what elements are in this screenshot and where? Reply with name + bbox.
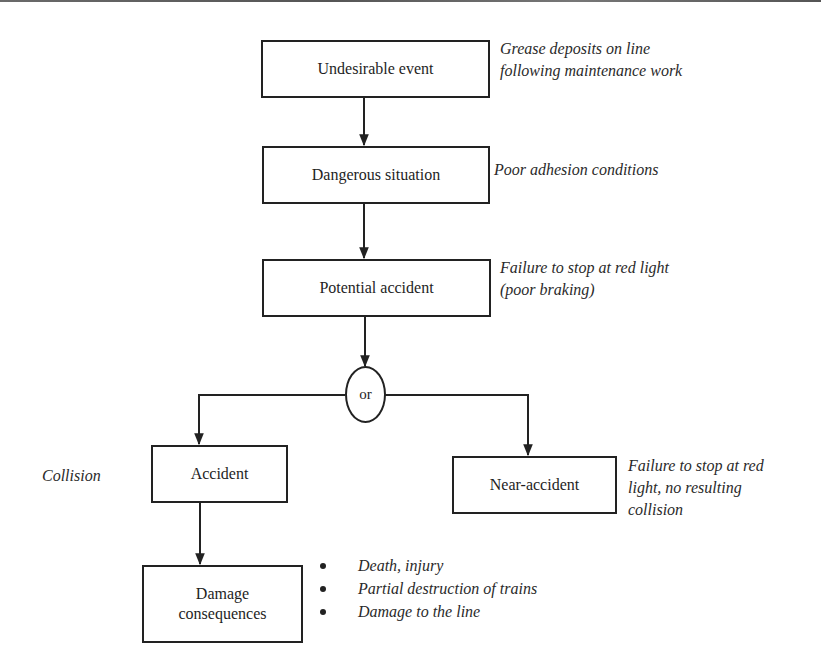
node-label-line: Damage	[196, 584, 249, 604]
list-item: Partial destruction of trains	[320, 577, 537, 600]
annotation-line: following maintenance work	[500, 60, 682, 82]
node-near-accident: Near-accident	[452, 456, 617, 514]
bullet-icon	[320, 563, 326, 569]
damage-consequences-list: Death, injury Partial destruction of tra…	[320, 554, 537, 623]
node-label: Dangerous situation	[312, 165, 440, 185]
annotation-accident: Collision	[42, 465, 101, 487]
or-gate: or	[345, 366, 386, 423]
node-label: Potential accident	[319, 278, 433, 298]
annotation-potential-accident: Failure to stop at red light (poor braki…	[500, 257, 669, 301]
node-label: Near-accident	[490, 475, 579, 495]
node-potential-accident: Potential accident	[262, 259, 491, 317]
bullet-icon	[320, 586, 326, 592]
annotation-line: Grease deposits on line	[500, 38, 682, 60]
list-item-text: Partial destruction of trains	[358, 580, 537, 597]
annotation-line: Poor adhesion conditions	[494, 159, 658, 181]
bullet-icon	[320, 609, 326, 615]
annotation-line: (poor braking)	[500, 279, 669, 301]
list-item: Damage to the line	[320, 600, 537, 623]
list-item: Death, injury	[320, 554, 537, 577]
edge-or-to-accident	[199, 395, 345, 444]
node-label: Undesirable event	[318, 59, 434, 79]
node-label: Accident	[191, 464, 249, 484]
list-item-text: Damage to the line	[358, 603, 480, 620]
annotation-dangerous-situation: Poor adhesion conditions	[494, 159, 658, 181]
annotation-line: Failure to stop at red	[628, 455, 764, 477]
annotation-line: Failure to stop at red light	[500, 257, 669, 279]
list-item-text: Death, injury	[358, 557, 443, 574]
node-undesirable-event: Undesirable event	[261, 40, 490, 98]
node-accident: Accident	[151, 445, 288, 503]
annotation-near-accident: Failure to stop at red light, no resulti…	[628, 455, 764, 521]
node-damage-consequences: Damage consequences	[142, 565, 303, 643]
or-label: or	[359, 386, 372, 403]
annotation-line: light, no resulting	[628, 477, 764, 499]
annotation-line: Collision	[42, 465, 101, 487]
node-dangerous-situation: Dangerous situation	[262, 146, 490, 204]
node-label-line: consequences	[179, 604, 267, 624]
edge-or-to-near-accident	[385, 395, 528, 455]
annotation-line: collision	[628, 499, 764, 521]
annotation-undesirable-event: Grease deposits on line following mainte…	[500, 38, 682, 82]
